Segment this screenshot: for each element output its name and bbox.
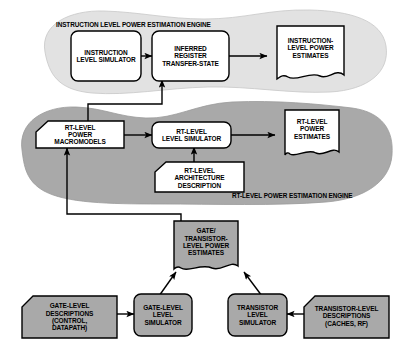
diagram-canvas: INSTRUCTION LEVEL POWER ESTIMATION ENGIN… — [0, 0, 405, 353]
node-transistor-level-descriptions[interactable] — [304, 296, 389, 338]
node-instruction-level-power-estimates[interactable] — [277, 26, 344, 79]
rt-engine-label: RT-LEVEL POWER ESTIMATION ENGINE — [232, 192, 352, 199]
node-inferred-register-transfer-state[interactable] — [152, 31, 229, 81]
node-gate-level-descriptions[interactable] — [22, 296, 117, 338]
edge-gls-to-gtpe — [159, 272, 176, 296]
node-gate-level-level-simulator[interactable] — [134, 294, 192, 336]
diagram-svg — [0, 0, 405, 353]
node-gate-transistor-level-power-estimates[interactable] — [174, 221, 238, 269]
node-rt-level-level-simulator[interactable] — [152, 122, 231, 148]
node-rt-level-power-estimates[interactable] — [285, 110, 339, 155]
node-rt-level-power-macromodels[interactable] — [36, 121, 124, 148]
node-rt-level-architecture-description[interactable] — [155, 162, 244, 192]
instruction-engine-label: INSTRUCTION LEVEL POWER ESTIMATION ENGIN… — [56, 21, 211, 28]
node-transistor-level-simulator[interactable] — [228, 294, 287, 336]
edge-tls-to-gtpe — [244, 272, 262, 296]
node-instruction-level-simulator[interactable] — [71, 31, 141, 81]
